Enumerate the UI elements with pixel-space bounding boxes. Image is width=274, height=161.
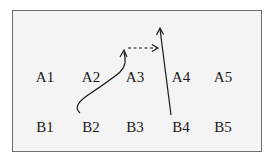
arrows-layer <box>0 0 274 161</box>
straight-arrow <box>157 28 172 115</box>
dashed-arrow <box>128 45 158 52</box>
curved-arrow <box>77 50 127 113</box>
